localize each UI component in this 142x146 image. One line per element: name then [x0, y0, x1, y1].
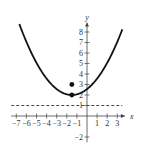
x-axis-arrow-icon [121, 114, 125, 118]
x-tick-label: −3 [52, 119, 61, 128]
points [69, 82, 74, 97]
x-axis-label: x [129, 112, 134, 121]
y-tick-label: 8 [79, 28, 83, 37]
x-tick-label: −1 [73, 119, 82, 128]
y-axis-arrow-icon [85, 23, 89, 27]
x-tick-label: −6 [22, 119, 31, 128]
x-tick-label: −2 [63, 119, 72, 128]
x-tick-label: −7 [12, 119, 21, 128]
y-tick-label: −2 [74, 133, 83, 142]
y-tick-label: 7 [79, 38, 83, 47]
y-tick-label: 1 [79, 101, 83, 110]
y-axis-label: y [84, 13, 89, 22]
y-tick-label: 4 [79, 70, 83, 79]
parabola-plot: −7−6−5−4−3−2−1123−212345678xy [0, 0, 142, 146]
y-tick-label: 2 [79, 91, 83, 100]
focus-point [69, 82, 74, 87]
tick-labels: −7−6−5−4−3−2−1123−212345678xy [12, 13, 134, 142]
y-tick-label: 3 [79, 80, 83, 89]
x-tick-label: 3 [115, 119, 119, 128]
y-tick-label: 5 [79, 59, 83, 68]
y-tick-label: 6 [79, 49, 83, 58]
vertex-point [69, 93, 74, 98]
x-tick-label: −4 [42, 119, 51, 128]
x-tick-label: −5 [32, 119, 41, 128]
x-tick-label: 1 [95, 119, 99, 128]
x-tick-label: 2 [105, 119, 109, 128]
